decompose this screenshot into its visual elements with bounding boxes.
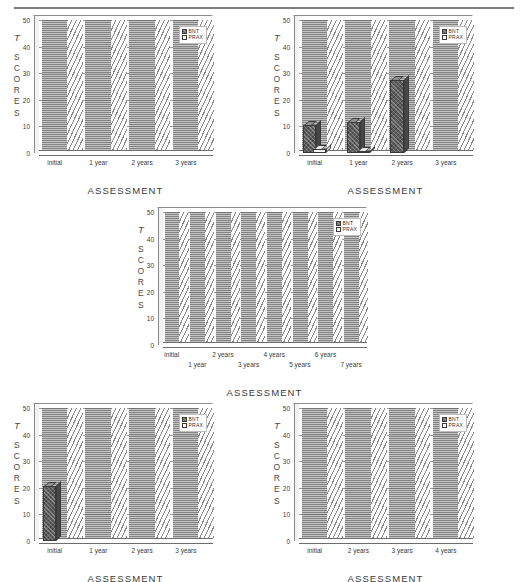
floor-gap-0 <box>67 408 83 541</box>
plot-area: BNTPRAX <box>38 20 213 153</box>
floor-gap-3 <box>256 212 265 345</box>
floor-gap-0 <box>179 212 188 345</box>
floor-gap-2 <box>415 20 431 153</box>
floor-gap-1 <box>205 212 214 345</box>
x-axis-title: ASSESSMENT <box>38 185 213 196</box>
bar-side-face <box>56 481 61 541</box>
floor-gap-2 <box>155 408 171 541</box>
prax-legend-entry: PRAX <box>336 227 357 232</box>
x-axis-title: ASSESSMENT <box>298 185 473 196</box>
y-tick-0: 0 <box>26 538 30 545</box>
floor-tile-6 <box>318 212 333 345</box>
floor-gap-1 <box>111 20 127 153</box>
x-category-label-3: 3 years <box>435 159 456 166</box>
legend-label: PRAX <box>189 423 203 428</box>
prax-swatch-icon <box>182 423 187 428</box>
legend-label: PRAX <box>189 35 203 40</box>
x-category-label-2: 3 years <box>391 547 412 554</box>
floor-tile-1 <box>190 212 205 345</box>
y-tick-30: 30 <box>147 262 154 269</box>
floor-tile-2 <box>129 20 154 153</box>
x-category-label-6: 6 years <box>315 351 336 358</box>
chart-legend: BNTPRAX <box>439 414 467 432</box>
floor-gap-0 <box>67 20 83 153</box>
prax-legend-entry: PRAX <box>182 35 203 40</box>
prax-legend-entry: PRAX <box>442 423 463 428</box>
y-tick-40: 40 <box>147 236 154 243</box>
prax-swatch-icon <box>442 423 447 428</box>
y-tick-labels: 01020304050 <box>10 20 32 153</box>
y-tick-40: 40 <box>283 432 290 439</box>
plot-area: BNTPRAX <box>162 212 367 345</box>
axis-floor <box>39 538 213 544</box>
floor-gap-4 <box>282 212 291 345</box>
floor-tile-1 <box>85 20 110 153</box>
x-category-labels: initial1 year2 years3 years <box>38 159 213 181</box>
floor-tile-1 <box>85 408 110 541</box>
x-category-label-2: 2 years <box>212 351 233 358</box>
x-category-label-1: 1 year <box>89 159 107 166</box>
floor-gap-1 <box>111 408 127 541</box>
y-tick-40: 40 <box>23 44 30 51</box>
x-category-label-0: initial <box>307 547 322 554</box>
prax-legend-entry: PRAX <box>182 423 203 428</box>
x-axis-title: ASSESSMENT <box>162 387 367 398</box>
chart-panel-bottom-right: TSCORESBNTPRAX01020304050initial2 years3… <box>266 400 485 582</box>
y-tick-labels: 01020304050 <box>270 20 292 153</box>
x-category-labels: initial1 year2 years3 years4 years5 year… <box>162 351 367 373</box>
x-category-label-2: 2 years <box>131 547 152 554</box>
x-category-label-5: 5 years <box>289 361 310 368</box>
plot-area: BNTPRAX <box>298 408 473 541</box>
legend-label: PRAX <box>449 423 463 428</box>
floor-tile-0 <box>42 20 67 153</box>
x-category-label-2: 2 years <box>391 159 412 166</box>
chart-panel-2: TSCORESBNTPRAX01020304050initial1 year2 … <box>266 12 485 203</box>
chart-legend: BNTPRAX <box>179 26 207 44</box>
floor-tile-1 <box>345 408 370 541</box>
y-tick-labels: 01020304050 <box>134 212 156 345</box>
plot-area-wrapper: BNTPRAX01020304050initial1 year2 years3 … <box>298 20 473 153</box>
y-tick-0: 0 <box>286 538 290 545</box>
chart-panel-top-right: TSCORESBNTPRAX01020304050initial1 year2 … <box>266 12 485 203</box>
figure-grid: TSCORESBNTPRAX01020304050initial1 year2 … <box>0 12 521 582</box>
y-tick-30: 30 <box>283 458 290 465</box>
chart-panel-3: TSCORESBNTPRAX01020304050initial1 year2 … <box>130 204 379 405</box>
y-tick-0: 0 <box>150 342 154 349</box>
y-tick-labels: 01020304050 <box>270 408 292 541</box>
x-axis-title: ASSESSMENT <box>38 573 213 582</box>
panel-row-top: TSCORESBNTPRAX01020304050initial1 year2 … <box>0 12 521 204</box>
y-tick-50: 50 <box>147 209 154 216</box>
floor-gap-0 <box>327 20 343 153</box>
x-category-label-7: 7 years <box>340 361 361 368</box>
floor-tile-4 <box>267 212 282 345</box>
bar-front-face <box>357 151 370 153</box>
floor-tile-0 <box>302 408 327 541</box>
bar-bnt-2 <box>390 76 403 153</box>
floor-gap-5 <box>308 212 317 345</box>
plot-area: BNTPRAX <box>298 20 473 153</box>
y-tick-10: 10 <box>283 511 290 518</box>
x-category-label-0: initial <box>164 351 179 358</box>
x-category-label-3: 4 years <box>435 547 456 554</box>
y-tick-50: 50 <box>23 17 30 24</box>
y-tick-10: 10 <box>283 123 290 130</box>
y-tick-20: 20 <box>23 485 30 492</box>
x-category-label-0: initial <box>47 159 62 166</box>
chart-panel-middle: TSCORESBNTPRAX01020304050initial1 year2 … <box>130 204 379 405</box>
x-category-labels: initial1 year2 years3 years <box>298 159 473 181</box>
x-axis-title: ASSESSMENT <box>298 573 473 582</box>
panel-row-bottom: TSCORESBNTPRAX01020304050initial1 year2 … <box>0 400 521 582</box>
chart-panel-1: TSCORESBNTPRAX01020304050initial1 year2 … <box>6 12 225 203</box>
chart-legend: BNTPRAX <box>439 26 467 44</box>
axis-floor <box>39 150 213 156</box>
bnt-swatch-icon <box>182 29 187 34</box>
x-category-label-3: 3 years <box>238 361 259 368</box>
chart-panel-top-left: TSCORESBNTPRAX01020304050initial1 year2 … <box>6 12 225 203</box>
y-tick-50: 50 <box>23 405 30 412</box>
plot-area-wrapper: BNTPRAX01020304050initial1 year2 years3 … <box>38 20 213 153</box>
bar-prax-0 <box>313 145 326 153</box>
prax-legend-entry: PRAX <box>442 35 463 40</box>
bar-front-face <box>313 149 326 153</box>
y-tick-labels: 01020304050 <box>10 408 32 541</box>
x-category-label-4: 4 years <box>264 351 285 358</box>
